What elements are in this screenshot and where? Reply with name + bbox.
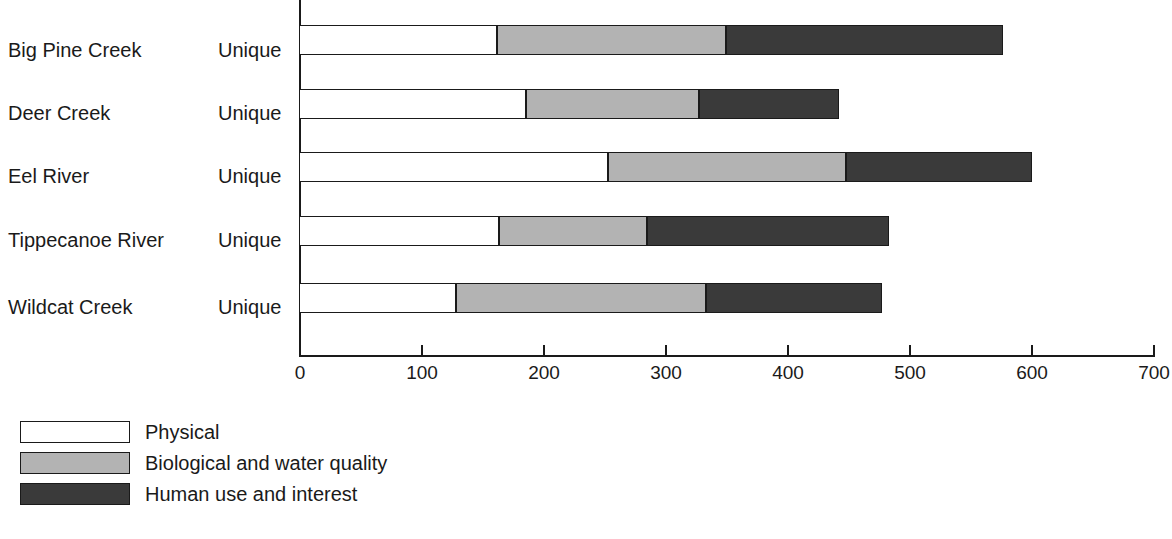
category-label-3: Tippecanoe River	[8, 230, 164, 250]
bar-segment-biological	[526, 89, 699, 119]
category-sublabel-1: Unique	[218, 103, 281, 123]
category-label-4: Wildcat Creek	[8, 297, 132, 317]
bar-segment-biological	[499, 216, 647, 246]
bar-segment-physical	[299, 89, 526, 119]
category-label-1: Deer Creek	[8, 103, 110, 123]
legend-item-biological: Biological and water quality	[20, 449, 580, 480]
x-tick-label-200: 200	[528, 362, 560, 384]
category-sublabel-0: Unique	[218, 40, 281, 60]
x-tick-label-0: 0	[295, 362, 306, 384]
x-tick-label-700: 700	[1138, 362, 1170, 384]
bar-segment-human	[699, 89, 839, 119]
x-tick-label-100: 100	[406, 362, 438, 384]
legend-label-human: Human use and interest	[145, 480, 357, 508]
bar-segment-physical	[299, 216, 499, 246]
bar-row	[299, 152, 1153, 182]
category-sublabel-3: Unique	[218, 230, 281, 250]
bar-segment-biological	[608, 152, 846, 182]
legend-item-human: Human use and interest	[20, 480, 580, 511]
chart-legend: Physical Biological and water quality Hu…	[20, 418, 580, 511]
x-axis-line	[299, 355, 1155, 357]
bar-row	[299, 216, 1153, 246]
category-sublabel-2: Unique	[218, 166, 281, 186]
x-tick-label-500: 500	[894, 362, 926, 384]
bar-segment-biological	[497, 25, 726, 55]
bar-segment-physical	[299, 25, 497, 55]
x-tick-0	[299, 345, 301, 356]
bar-row	[299, 25, 1153, 55]
bar-row	[299, 283, 1153, 313]
x-tick-500	[909, 345, 911, 356]
x-tick-300	[665, 345, 667, 356]
x-tick-label-400: 400	[772, 362, 804, 384]
category-sublabel-4: Unique	[218, 297, 281, 317]
x-tick-700	[1153, 345, 1155, 356]
bar-segment-physical	[299, 152, 608, 182]
legend-label-biological: Biological and water quality	[145, 449, 387, 477]
x-tick-100	[421, 345, 423, 356]
bar-segment-biological	[456, 283, 706, 313]
bar-segment-human	[706, 283, 882, 313]
legend-label-physical: Physical	[145, 418, 219, 446]
x-tick-label-600: 600	[1016, 362, 1048, 384]
bar-segment-human	[846, 152, 1033, 182]
bar-row	[299, 89, 1153, 119]
category-label-2: Eel River	[8, 166, 89, 186]
bar-segment-physical	[299, 283, 456, 313]
x-tick-400	[787, 345, 789, 356]
legend-swatch-human-icon	[20, 483, 130, 505]
bar-segment-human	[647, 216, 890, 246]
legend-swatch-biological-icon	[20, 452, 130, 474]
plot-area: 0100200300400500600700	[299, 0, 1153, 356]
legend-item-physical: Physical	[20, 418, 580, 449]
category-label-0: Big Pine Creek	[8, 40, 141, 60]
bar-segment-human	[726, 25, 1003, 55]
x-tick-label-300: 300	[650, 362, 682, 384]
legend-swatch-physical-icon	[20, 421, 130, 443]
stacked-bar-chart: Big Pine Creek Unique Deer Creek Unique …	[0, 0, 1172, 539]
x-tick-600	[1031, 345, 1033, 356]
x-tick-200	[543, 345, 545, 356]
